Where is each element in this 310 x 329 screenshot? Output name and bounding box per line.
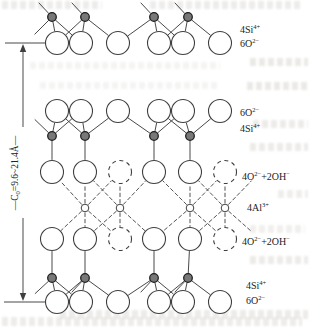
oxygen-hydroxyl-atom [179,161,202,184]
al-o-bond [163,211,186,231]
si-o-bond [128,118,150,133]
cutoff-bond-stub [141,3,151,13]
si-o-bond [192,281,210,295]
hidden-oxygen-hydroxyl-atom [214,228,237,251]
oxygen-atom [70,32,93,55]
textbook-figure-page: —C0=9.6~21.4Å— 4Si4+6O2−6O2−4Si4+4O2−+2O… [0,0,310,329]
si-o-bond [89,281,108,295]
al-o-bond [94,181,117,204]
atom-circles [41,13,237,314]
si-o-bond [128,20,150,36]
hidden-oxygen-hydroxyl-atom [109,161,132,184]
si-o-bond [155,22,157,31]
al-o-bond [88,181,111,204]
hidden-oxygen-hydroxyl-atom [214,161,237,184]
al-o-bond [163,181,187,205]
oxygen-atom [46,100,69,123]
oxygen-atom [46,291,69,314]
label-4si-top: 4Si4+ [240,25,260,35]
silicon-atom [184,13,193,22]
label-6o-upper: 6O2− [240,108,259,118]
cutoff-bond-stub [39,3,49,13]
oxygen-hydroxyl-atom [74,161,97,184]
al-o-bond [61,211,81,230]
aluminium-atom [116,204,124,212]
oxygen-atom [70,291,93,314]
al-o-bond [124,211,145,230]
silicon-atom [48,274,57,283]
silicon-atom [81,274,90,283]
al-o-bond [123,181,145,204]
si-o-bond [185,22,187,31]
al-o-bond [89,211,111,230]
al-o-bond [193,181,216,204]
silicon-atom [48,132,57,141]
aluminium-atom [186,204,194,212]
aluminium-atom [81,204,89,212]
si-o-bond [89,119,108,133]
oxygen-atom [107,291,130,314]
silicon-atom [186,132,195,141]
si-o-bond [53,22,55,31]
silicon-atom [184,274,193,283]
oxygen-atom [172,291,195,314]
label-4o-2oh-lower: 4O2−+2OH− [242,237,290,247]
oxygen-atom [46,32,69,55]
silicon-atom [81,132,90,141]
oxygen-atom [148,32,171,55]
silicon-atom [150,274,159,283]
oxygen-atom [107,32,130,55]
label-4si-bottom: 4Si4+ [246,281,266,291]
label-6o-bottom: 6O2− [246,296,265,306]
al-o-bond [199,181,222,204]
oxygen-hydroxyl-atom [143,228,166,251]
si-o-bond [53,283,54,290]
oxygen-atom [172,32,195,55]
oxygen-atom [172,100,195,123]
si-o-bond [155,283,156,290]
silicon-atom [48,13,57,22]
al-o-bond [228,181,251,204]
si-o-bond [155,123,157,131]
oxygen-atom [209,100,232,123]
silicon-atom [150,132,159,141]
label-4o-2oh-upper: 4O2−+2OH− [242,172,290,182]
al-o-bond [194,211,216,230]
cutoff-bond-stub [175,3,185,13]
oxygen-atom [107,100,130,123]
si-apical-o-bond [188,251,189,273]
al-o-bond [229,211,251,230]
oxygen-atom [209,32,232,55]
oxygen-hydroxyl-atom [179,228,202,251]
si-o-bond [192,20,210,35]
cutoff-bond-stub [35,120,48,133]
arrowhead-up-icon [20,44,26,52]
c0-dimension-label: —C0=9.6~21.4Å— [8,113,22,233]
oxygen-atom [148,100,171,123]
oxygen-atom [70,100,93,123]
aluminium-atom [221,204,229,212]
label-6o-top: 6O2− [240,39,259,49]
si-o-bond [53,123,55,131]
cutoff-bond-stub [35,281,48,293]
si-o-bond [83,22,84,31]
si-o-bond [83,283,84,290]
oxygen-hydroxyl-atom [41,161,64,184]
oxygen-atom [209,291,232,314]
oxygen-hydroxyl-atom [41,228,64,251]
cutoff-bond-stub [72,3,82,13]
cutoff-bond-stub [35,21,49,35]
oxygen-hydroxyl-atom [143,161,166,184]
al-o-bond [199,211,221,230]
si-o-bond [89,20,108,35]
si-o-bond [194,119,211,133]
al-o-bond [60,181,81,204]
silicon-atom [150,13,159,22]
hidden-oxygen-hydroxyl-atom [109,228,132,251]
si-o-bond [186,123,188,131]
al-o-bond [94,211,116,230]
arrowhead-down-icon [20,293,26,301]
si-o-bond [128,281,149,295]
label-4si-upper: 4Si4+ [240,124,260,134]
oxygen-hydroxyl-atom [74,228,97,251]
